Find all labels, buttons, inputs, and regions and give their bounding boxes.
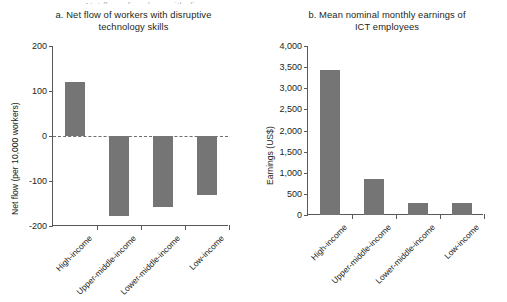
chart-b-y-tick: 1,000 — [279, 168, 308, 178]
chart-a-y-tick: 0 — [42, 131, 53, 141]
chart-b-y-tick: 3,500 — [279, 62, 308, 72]
chart-a-x-tick — [97, 225, 98, 230]
chart-a-x-tick — [141, 225, 142, 230]
chart-b-x-tick — [440, 214, 441, 219]
chart-b-y-tick: 500 — [287, 189, 308, 199]
chart-b-bar — [408, 203, 427, 215]
chart-b-plot-area: 4,0003,5003,0002,5002,0001,5001,0005000H… — [307, 46, 483, 215]
chart-a-x-label: High-income — [54, 233, 94, 273]
chart-a-title-line1: a. Net flow of workers with disruptive — [56, 9, 212, 20]
chart-b-bar — [320, 70, 339, 215]
chart-b-y-tick: 4,000 — [279, 41, 308, 51]
chart-b-y-tick: 1,500 — [279, 147, 308, 157]
chart-b-bar — [364, 179, 383, 215]
chart-b-y-tick: 0 — [297, 210, 308, 220]
chart-b-title: b. Mean nominal monthly earnings of ICT … — [277, 9, 497, 33]
chart-a-y-axis-label: Net flow (per 10,000 workers) — [10, 102, 20, 215]
chart-a-y-tick: 100 — [32, 86, 53, 96]
chart-a-y-tick: -100 — [29, 176, 53, 186]
chart-a-title-line2: technology skills — [99, 21, 169, 32]
chart-b-y-tick: 2,000 — [279, 126, 308, 136]
chart-panel-a: a. Net flow of workers with disruptive t… — [0, 0, 253, 302]
chart-b-title-line2: ICT employees — [355, 21, 419, 32]
chart-b-y-tick: 2,500 — [279, 104, 308, 114]
chart-b-x-tick — [396, 214, 397, 219]
chart-b-x-tick — [484, 214, 485, 219]
chart-a-y-tick: -200 — [29, 221, 53, 231]
chart-a-bar — [109, 136, 128, 216]
chart-a-y-tick: 200 — [32, 41, 53, 51]
chart-b-x-tick — [352, 214, 353, 219]
chart-a-x-tick — [185, 225, 186, 230]
chart-b-title-line1: b. Mean nominal monthly earnings of — [308, 9, 465, 20]
chart-b-y-axis-label: Earnings (US$) — [265, 126, 275, 185]
chart-a-bar — [65, 82, 84, 136]
chart-b-bar — [452, 203, 471, 215]
chart-a-plot-area: 2001000-100-200High-incomeUpper-middle-i… — [52, 46, 228, 226]
chart-b-y-tick: 3,000 — [279, 83, 308, 93]
chart-a-bar — [197, 136, 216, 195]
chart-a-title: a. Net flow of workers with disruptive t… — [24, 9, 243, 33]
chart-a-bar — [153, 136, 172, 207]
figure: a. Net flow of workers with di a. Net fl… — [0, 0, 507, 302]
chart-a-x-label: Low-income — [187, 233, 226, 272]
chart-a-x-tick — [229, 225, 230, 230]
